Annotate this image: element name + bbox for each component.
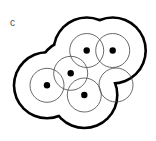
circle-cover-diagram — [0, 0, 156, 141]
center-dot — [84, 47, 90, 53]
center-dot — [81, 92, 87, 98]
center-dot — [68, 70, 74, 76]
center-dot — [110, 47, 116, 53]
center-dot — [44, 82, 50, 88]
